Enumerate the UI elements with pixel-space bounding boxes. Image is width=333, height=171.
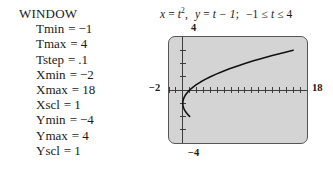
caption-comma: , <box>185 8 188 20</box>
parametric-equation-caption: x=t2,y=t − 1;−1≤t≤4 <box>160 7 292 21</box>
parametric-plot <box>169 37 307 143</box>
caption-y-lhs: y <box>195 8 200 20</box>
window-settings-panel: WINDOW Tmin=−1 Tmax=4 Tstep=.1 Xmin=−2 X… <box>19 6 149 158</box>
window-row-xscl: Xscl=1 <box>19 97 149 112</box>
caption-le-1: ≤ <box>261 8 267 20</box>
caption-parameter: t <box>271 8 274 20</box>
caption-domain-lower: −1 <box>246 8 258 20</box>
window-row-xmin: Xmin=−2 <box>19 67 149 82</box>
setting-name: Tmin <box>36 21 64 36</box>
setting-value: 18 <box>82 82 95 97</box>
setting-value: .1 <box>78 52 88 67</box>
setting-value: 4 <box>82 128 89 143</box>
equals-sign: = <box>60 97 74 112</box>
caption-domain-upper: 4 <box>287 8 293 20</box>
setting-name: Xscl <box>36 97 60 112</box>
equals-sign: = <box>64 52 78 67</box>
window-row-tstep: Tstep=.1 <box>19 52 149 67</box>
setting-name: Tstep <box>36 52 64 67</box>
caption-semicolon: ; <box>236 8 239 20</box>
setting-value: 1 <box>74 143 81 158</box>
axis-label-ymin: −4 <box>188 147 199 158</box>
equals-sign: = <box>68 128 82 143</box>
setting-value: 4 <box>81 36 88 51</box>
setting-value: −1 <box>79 21 93 36</box>
axis-label-ymax: 4 <box>191 22 196 33</box>
parametric-curve <box>183 50 293 116</box>
caption-equals-1: = <box>168 8 175 20</box>
caption-le-2: ≤ <box>277 8 283 20</box>
setting-name: Ymax <box>36 128 68 143</box>
axis-label-xmax: 18 <box>312 82 323 93</box>
window-row-ymax: Ymax=4 <box>19 128 149 143</box>
setting-name: Yscl <box>36 143 60 158</box>
calculator-screen <box>168 36 308 144</box>
window-row-tmin: Tmin=−1 <box>19 21 149 36</box>
window-settings-list: Tmin=−1 Tmax=4 Tstep=.1 Xmin=−2 Xmax=18 … <box>19 21 149 158</box>
caption-x-lhs: x <box>160 8 165 20</box>
window-row-tmax: Tmax=4 <box>19 36 149 51</box>
equals-sign: = <box>60 143 74 158</box>
equals-sign: = <box>66 36 80 51</box>
caption-y-rhs: t − 1 <box>213 8 236 20</box>
axis-label-xmin: −2 <box>149 82 160 93</box>
window-row-xmax: Xmax=18 <box>19 82 149 97</box>
equals-sign: = <box>66 112 80 127</box>
equals-sign: = <box>66 67 80 82</box>
window-heading: WINDOW <box>19 6 149 21</box>
window-row-yscl: Yscl=1 <box>19 143 149 158</box>
setting-name: Xmin <box>36 67 66 82</box>
equals-sign: = <box>64 21 78 36</box>
setting-name: Ymin <box>36 112 66 127</box>
window-row-ymin: Ymin=−4 <box>19 112 149 127</box>
setting-value: 1 <box>74 97 81 112</box>
setting-name: Tmax <box>36 36 66 51</box>
setting-value: −4 <box>80 112 94 127</box>
equals-sign: = <box>68 82 82 97</box>
setting-name: Xmax <box>36 82 68 97</box>
figure-panel: x=t2,y=t − 1;−1≤t≤4 <box>155 0 333 171</box>
caption-equals-2: = <box>203 8 210 20</box>
setting-value: −2 <box>80 67 94 82</box>
